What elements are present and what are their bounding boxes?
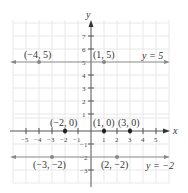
x-tick-label: 4 [141, 136, 145, 144]
point-label: (2, −2) [101, 159, 128, 171]
point-label: (−4, 5) [24, 49, 51, 61]
y-tick-label: 6 [82, 46, 86, 54]
y-tick-label: −2 [80, 154, 88, 162]
y-tick-label: 2 [82, 98, 86, 106]
point-label: (1, 0) [93, 117, 115, 129]
x-tick-label: −2 [60, 136, 68, 144]
point-neg4-5 [37, 60, 41, 64]
point-label: (1, 5) [93, 49, 115, 61]
point-label: (3, 0) [118, 117, 140, 129]
point-1-5 [102, 60, 106, 64]
x-axis-label: x [172, 125, 178, 136]
x-tick-label: 1 [102, 136, 106, 144]
x-tick-label: 5 [154, 136, 158, 144]
y-tick-label: 3 [82, 85, 86, 93]
x-tick-label: −4 [34, 136, 42, 144]
point-1-0 [102, 129, 106, 133]
line-label-y-5: y = 5 [141, 50, 163, 61]
point-3-0 [128, 129, 132, 133]
y-tick-label: 7 [82, 33, 86, 41]
coordinate-plane: y x −5 −4 −3 −2 −1 1 2 3 4 5 7 6 5 4 3 2… [0, 0, 188, 193]
y-tick-label: 5 [82, 59, 86, 67]
x-tick-label: −5 [21, 136, 29, 144]
point-label: (−3, −2) [33, 159, 66, 171]
y-tick-label: 1 [82, 111, 86, 119]
y-tick-label: −3 [80, 167, 88, 175]
point-label: (−2, 0) [50, 117, 77, 129]
x-tick-label: 2 [115, 136, 119, 144]
point-neg2-0 [63, 129, 67, 133]
y-tick-label: 4 [82, 72, 86, 80]
y-axis-label: y [85, 9, 91, 20]
y-tick-label: −1 [80, 141, 88, 149]
x-tick-label: 3 [128, 136, 132, 144]
line-label-y-neg2: y = −2 [145, 160, 174, 171]
x-tick-label: −3 [47, 136, 55, 144]
